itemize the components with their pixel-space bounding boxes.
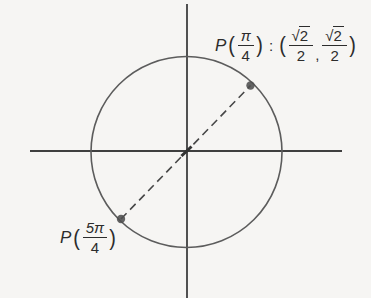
p1-angle-fraction: π 4 [238,27,254,65]
p1-open-paren: ( [228,34,236,56]
p2-angle-numerator: 5π [83,219,107,238]
p1-x-denominator: 2 [297,46,305,64]
p2-angle-denominator: 4 [91,238,99,256]
p2-open-paren: ( [73,227,81,249]
p1-y-coordinate-fraction: √ 2 2 [322,26,347,65]
p1-coord-close-paren: ) [348,34,356,56]
label-point-5pi-4: P ( 5π 4 ) [60,219,117,257]
point-5pi-4-dot [117,215,125,223]
label-point-pi-4: P ( π 4 ) : ( √ 2 2 , √ 2 2 ) [215,26,357,65]
p1-close-paren: ) [255,34,263,56]
unit-circle-figure: P ( π 4 ) : ( √ 2 2 , √ 2 2 ) P ( [0,0,371,298]
p1-angle-numerator: π [238,27,254,46]
p1-x-coordinate-fraction: √ 2 2 [289,26,314,65]
p2-angle-fraction: 5π 4 [83,219,107,257]
p2-close-paren: ) [109,227,117,249]
p1-colon: : [269,38,273,53]
p1-comma: , [315,47,319,62]
p1-coord-open-paren: ( [279,34,287,56]
p2-function-letter: P [60,229,71,246]
p1-function-letter: P [215,37,226,54]
p1-y-denominator: 2 [330,46,338,64]
p1-angle-denominator: 4 [242,46,250,64]
point-pi-4-dot [246,81,254,89]
p1-y-radicand: 2 [333,26,344,44]
p1-x-radicand: 2 [299,26,310,44]
